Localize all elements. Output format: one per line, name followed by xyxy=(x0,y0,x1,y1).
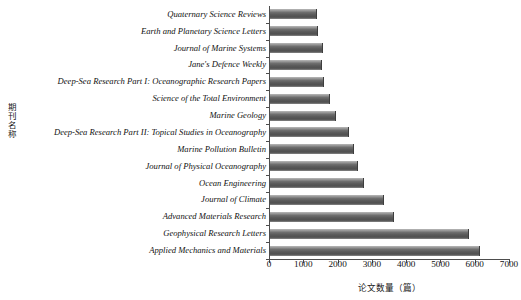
y-axis-tick xyxy=(266,107,269,108)
x-axis-tick-label: 4000 xyxy=(397,259,415,269)
x-axis-tick-label: 2000 xyxy=(328,259,346,269)
x-axis-title: 论文数量（篇） xyxy=(269,281,510,293)
category-label: Journal of Marine Systems xyxy=(174,43,266,53)
bar-chart: 期刊名称 论文数量（篇） 010002000300040005000600070… xyxy=(0,0,521,300)
category-label: Science of the Total Environment xyxy=(153,93,266,103)
y-axis-tick xyxy=(266,158,269,159)
bar xyxy=(270,178,364,188)
x-axis-tick-label: 1000 xyxy=(294,259,312,269)
bar xyxy=(270,144,354,154)
x-axis-tick-label: 0 xyxy=(267,259,272,269)
bar xyxy=(270,43,323,53)
plot-area xyxy=(269,6,509,259)
bar xyxy=(270,26,318,36)
x-axis-tick-label: 6000 xyxy=(466,259,484,269)
bar xyxy=(270,246,480,256)
y-axis-tick xyxy=(266,57,269,58)
y-axis-tick xyxy=(266,141,269,142)
bar xyxy=(270,212,394,222)
y-axis-tick xyxy=(266,175,269,176)
bar xyxy=(270,195,384,205)
bar xyxy=(270,9,317,19)
category-label: Marine Geology xyxy=(209,110,266,120)
bar xyxy=(270,229,469,239)
bar xyxy=(270,77,324,87)
y-axis-tick xyxy=(266,40,269,41)
x-axis-tick-label: 5000 xyxy=(431,259,449,269)
y-axis-tick xyxy=(266,192,269,193)
y-axis-title: 期刊名称 xyxy=(2,103,16,139)
x-axis-tick-label: 7000 xyxy=(500,259,518,269)
category-label: Deep-Sea Research Part I: Oceanographic … xyxy=(58,76,266,86)
category-label: Ocean Engineering xyxy=(199,178,266,188)
bar xyxy=(270,127,349,137)
category-label: Advanced Materials Research xyxy=(163,211,266,221)
category-label: Journal of Climate xyxy=(201,194,266,204)
category-label: Applied Mechanics and Materials xyxy=(149,245,266,255)
category-label: Quaternary Science Reviews xyxy=(167,9,266,19)
y-axis-tick xyxy=(266,73,269,74)
category-label: Jane's Defence Weekly xyxy=(188,59,266,69)
y-axis-tick xyxy=(266,23,269,24)
y-axis-tick xyxy=(266,90,269,91)
bar xyxy=(270,161,358,171)
x-axis-tick-label: 3000 xyxy=(363,259,381,269)
y-axis-tick xyxy=(266,124,269,125)
category-label: Marine Pollution Bulletin xyxy=(177,144,266,154)
bar xyxy=(270,94,330,104)
y-axis-tick xyxy=(266,208,269,209)
bar xyxy=(270,60,322,70)
y-axis-tick xyxy=(266,242,269,243)
category-label: Deep-Sea Research Part II: Topical Studi… xyxy=(54,127,266,137)
category-label: Geophysical Research Letters xyxy=(163,228,266,238)
bar xyxy=(270,111,336,121)
category-label: Journal of Physical Oceanography xyxy=(145,161,266,171)
category-label: Earth and Planetary Science Letters xyxy=(141,26,266,36)
y-axis-tick xyxy=(266,225,269,226)
